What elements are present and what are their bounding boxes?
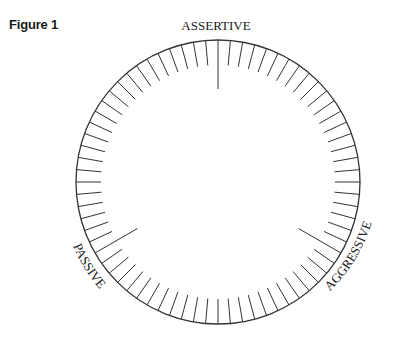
dial-tick xyxy=(89,122,112,133)
dial-tick xyxy=(102,249,122,263)
dial-ticks xyxy=(76,40,360,324)
dial-tick xyxy=(78,202,103,206)
assertive-label: ASSERTIVE xyxy=(181,18,250,33)
dial-tick xyxy=(127,73,143,92)
dial-tick xyxy=(137,66,151,86)
dial-tick xyxy=(77,170,102,172)
dial-major-tick xyxy=(95,229,137,254)
dial-tick xyxy=(293,73,309,92)
dial-tick xyxy=(228,299,230,324)
dial-tick xyxy=(118,82,136,100)
aggressive-label: AGGRESSIVE xyxy=(321,219,374,293)
dial-tick xyxy=(319,111,341,124)
dial-tick xyxy=(238,42,242,67)
dial-tick xyxy=(258,49,267,72)
dial-tick xyxy=(324,231,347,242)
dial-tick xyxy=(301,82,319,100)
dial-tick xyxy=(277,59,290,81)
dial-tick xyxy=(335,170,360,172)
dial-tick xyxy=(328,222,352,231)
dial-tick xyxy=(147,283,160,305)
assertiveness-dial: ASSERTIVE AGGRESSIVE PASSIVE xyxy=(0,0,402,342)
dial-tick xyxy=(81,212,105,218)
dial-tick xyxy=(109,257,128,273)
dial-tick xyxy=(328,133,352,142)
dial-tick xyxy=(308,257,327,273)
dial-tick xyxy=(81,145,105,151)
dial-tick xyxy=(258,292,267,316)
dial-tick xyxy=(169,49,178,72)
aggressive-label-path: AGGRESSIVE xyxy=(321,219,374,293)
dial-tick xyxy=(335,192,360,194)
dial-tick xyxy=(109,91,128,107)
dial-tick xyxy=(324,122,347,133)
dial-tick xyxy=(333,157,358,161)
dial-tick xyxy=(248,295,254,319)
dial-tick xyxy=(314,101,334,115)
dial-tick xyxy=(285,66,299,86)
dial-tick xyxy=(137,278,151,298)
dial-tick xyxy=(158,53,169,76)
dial-tick xyxy=(147,59,160,81)
dial-tick xyxy=(314,249,334,263)
dial-tick xyxy=(193,42,197,67)
dial-tick xyxy=(277,283,290,305)
dial-tick xyxy=(333,202,358,206)
dial-tick xyxy=(206,41,208,66)
dial-tick xyxy=(181,45,187,69)
dial-tick xyxy=(78,157,103,161)
dial-tick xyxy=(301,265,319,283)
dial-tick xyxy=(293,272,309,291)
dial-tick xyxy=(85,133,109,142)
dial-tick xyxy=(248,45,254,69)
dial-tick xyxy=(127,272,143,291)
dial-tick xyxy=(95,111,117,124)
dial-tick xyxy=(267,288,278,311)
dial-tick xyxy=(118,265,136,283)
dial-tick xyxy=(331,212,355,218)
dial-tick xyxy=(331,145,355,151)
dial-tick xyxy=(169,292,178,316)
dial-tick xyxy=(181,295,187,319)
dial-tick xyxy=(193,297,197,322)
dial-tick xyxy=(308,91,327,107)
dial-tick xyxy=(85,222,109,231)
dial-tick xyxy=(238,297,242,322)
dial-tick xyxy=(102,101,122,115)
dial-tick xyxy=(267,53,278,76)
dial-tick xyxy=(77,192,102,194)
dial-tick xyxy=(228,41,230,66)
dial-tick xyxy=(206,299,208,324)
dial-tick xyxy=(89,231,112,242)
dial-tick xyxy=(158,288,169,311)
dial-major-tick xyxy=(299,229,341,254)
dial-tick xyxy=(285,278,299,298)
